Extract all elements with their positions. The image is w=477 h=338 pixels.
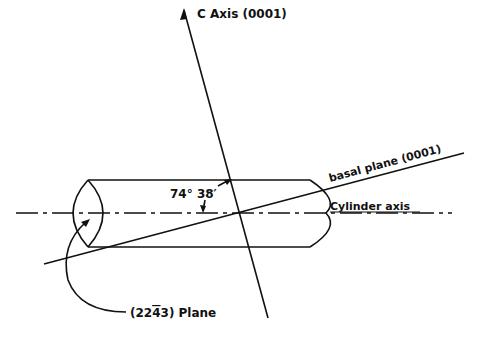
c-axis-label: C Axis (0001) <box>197 7 287 21</box>
angle-arrowhead-down-icon <box>200 205 206 213</box>
c-axis-arrowhead-icon <box>180 8 187 20</box>
cylinder-axis-label: Cylinder axis <box>330 200 410 213</box>
crystal-cylinder-diagram: C Axis (0001) 74° 38′ basal plane (0001)… <box>0 0 477 338</box>
svg-text:(2243) Plane: (2243) Plane <box>130 306 216 320</box>
angle-label: 74° 38′ <box>170 187 217 201</box>
plane-bar-digit: 4 <box>152 306 160 320</box>
c-axis-line <box>184 10 268 318</box>
plane-label: (2243) Plane <box>130 306 216 320</box>
